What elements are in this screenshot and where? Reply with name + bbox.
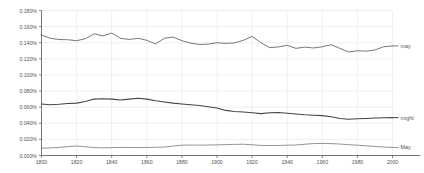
series-inline-labels: maymightMay bbox=[401, 43, 415, 151]
x-tick-label: 2000 bbox=[387, 159, 399, 165]
y-tick-label: 0.040% bbox=[19, 120, 37, 126]
axes bbox=[42, 11, 421, 156]
ngram-chart: 0.000%0.020%0.040%0.060%0.080%0.100%0.12… bbox=[0, 0, 424, 173]
series-label-might[interactable]: might bbox=[401, 115, 415, 121]
tickmarks bbox=[39, 11, 393, 159]
y-tick-label: 0.020% bbox=[19, 136, 37, 142]
x-tick-label: 1880 bbox=[176, 159, 188, 165]
y-tick-label: 0.100% bbox=[19, 72, 37, 78]
y-axis-tick-labels: 0.000%0.020%0.040%0.060%0.080%0.100%0.12… bbox=[19, 8, 37, 159]
y-tick-label: 0.080% bbox=[19, 88, 37, 94]
data-series-lines bbox=[42, 33, 399, 148]
x-axis-tick-labels: 1800182018401860188019001920194019601980… bbox=[36, 159, 399, 165]
x-tick-label: 1840 bbox=[106, 159, 118, 165]
y-tick-label: 0.180% bbox=[19, 8, 37, 14]
x-tick-label: 1920 bbox=[246, 159, 258, 165]
x-tick-label: 1860 bbox=[141, 159, 153, 165]
y-tick-label: 0.120% bbox=[19, 56, 37, 62]
series-label-May[interactable]: May bbox=[401, 144, 411, 150]
x-tick-label: 1800 bbox=[36, 159, 48, 165]
x-tick-label: 1980 bbox=[352, 159, 364, 165]
y-tick-label: 0.000% bbox=[19, 153, 37, 159]
y-tick-label: 0.160% bbox=[19, 24, 37, 30]
x-tick-label: 1900 bbox=[211, 159, 223, 165]
series-label-may[interactable]: may bbox=[401, 43, 411, 49]
x-tick-label: 1940 bbox=[281, 159, 293, 165]
x-tick-label: 1820 bbox=[71, 159, 83, 165]
y-tick-label: 0.060% bbox=[19, 104, 37, 110]
x-tick-label: 1960 bbox=[317, 159, 329, 165]
y-tick-label: 0.140% bbox=[19, 40, 37, 46]
gridlines bbox=[42, 11, 393, 156]
chart-plot-area: 0.000%0.020%0.040%0.060%0.080%0.100%0.12… bbox=[0, 0, 424, 173]
